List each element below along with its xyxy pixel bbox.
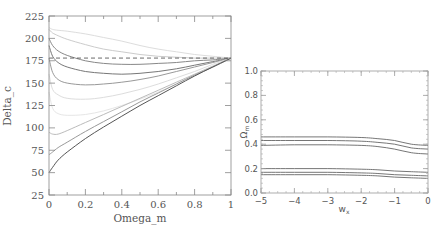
- y-tick-label: 0.0: [244, 188, 258, 198]
- x-tick-label: −4: [288, 196, 301, 206]
- x-tick-label: −1: [388, 196, 401, 206]
- omega-m-xlabel: wx: [339, 204, 350, 215]
- omega-m-chart: −5−4−3−2−100.00.20.40.60.81.0 wx Ωm: [0, 0, 446, 227]
- omega-m-curve: [261, 169, 428, 173]
- omega-m-axis-ticks: −5−4−3−2−100.00.20.40.60.81.0: [244, 66, 430, 206]
- y-tick-label: 0.6: [244, 115, 258, 125]
- figure: 00.20.40.60.81255075100125150175200225 O…: [0, 0, 446, 227]
- omega-m-ylabel: Ωm: [239, 125, 250, 138]
- x-tick-label: 0: [425, 196, 430, 206]
- y-tick-label: 0.8: [244, 90, 258, 100]
- y-tick-label: 0.2: [244, 164, 258, 174]
- x-tick-label: −3: [322, 196, 335, 206]
- y-tick-label: 1.0: [244, 66, 258, 76]
- omega-m-curves: [261, 137, 428, 179]
- y-tick-label: 0.4: [244, 139, 258, 149]
- x-tick-label: −2: [355, 196, 368, 206]
